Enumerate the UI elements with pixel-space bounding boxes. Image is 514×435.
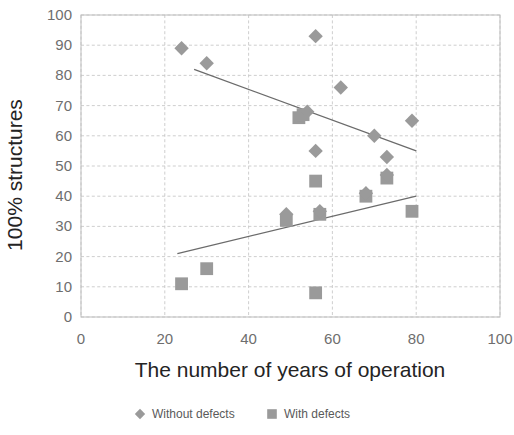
x-tick-label: 80: [408, 330, 425, 347]
y-tick-label: 40: [55, 187, 72, 204]
y-tick-label: 60: [55, 127, 72, 144]
y-axis-title: 100% structures: [3, 99, 26, 251]
data-point-with-defects: [175, 277, 188, 290]
chart-canvas: 0102030405060708090100 020406080100 100%…: [0, 0, 514, 435]
x-tick-label: 100: [487, 330, 512, 347]
y-tick-label: 50: [55, 157, 72, 174]
x-axis-title: The number of years of operation: [135, 358, 446, 381]
y-tick-label: 90: [55, 36, 72, 53]
data-point-with-defects: [406, 205, 419, 218]
data-point-with-defects: [309, 175, 322, 188]
x-tick-label: 60: [324, 330, 341, 347]
y-tick-label: 30: [55, 217, 72, 234]
y-tick-label: 100: [47, 6, 72, 23]
legend-marker-square-icon: [267, 409, 277, 419]
legend-item-label: With defects: [284, 407, 350, 421]
y-tick-label: 80: [55, 66, 72, 83]
legend-item-label: Without defects: [152, 407, 235, 421]
x-tick-label: 20: [156, 330, 173, 347]
data-point-with-defects: [309, 286, 322, 299]
scatter-chart-figure: 0102030405060708090100 020406080100 100%…: [0, 0, 514, 435]
x-tick-label: 0: [77, 330, 85, 347]
data-point-with-defects: [200, 262, 213, 275]
y-tick-label: 20: [55, 248, 72, 265]
y-tick-label: 10: [55, 278, 72, 295]
y-tick-label: 70: [55, 97, 72, 114]
y-tick-label: 0: [64, 308, 72, 325]
x-tick-label: 40: [240, 330, 257, 347]
